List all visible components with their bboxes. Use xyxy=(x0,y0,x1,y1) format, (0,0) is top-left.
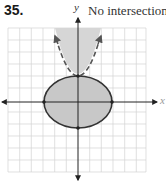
vertex-point xyxy=(42,100,46,104)
vertex-point xyxy=(76,74,80,78)
vertex-point xyxy=(110,100,114,104)
vertex-point xyxy=(76,126,80,130)
coordinate-graph xyxy=(0,0,166,182)
